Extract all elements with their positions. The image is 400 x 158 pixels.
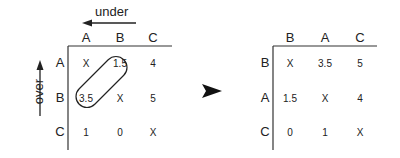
right-arrowhead-icon	[202, 84, 222, 98]
matrix-cell: X	[141, 127, 165, 138]
matrix-cell: 5	[348, 58, 372, 69]
matrix-cell: X	[313, 93, 337, 104]
under-label: under	[95, 4, 128, 19]
row-header: A	[255, 90, 275, 105]
matrix-cell: X	[348, 127, 372, 138]
matrix-cell: 1	[74, 127, 98, 138]
over-label: over	[31, 72, 46, 112]
col-header: A	[315, 30, 335, 45]
row-header: C	[255, 124, 275, 139]
col-header: A	[76, 30, 96, 45]
matrix-cell: 3.5	[313, 58, 337, 69]
col-header: B	[280, 30, 300, 45]
row-header: B	[50, 90, 70, 105]
matrix-cell: X	[278, 58, 302, 69]
matrix-cell: 4	[348, 93, 372, 104]
row-header: B	[255, 55, 275, 70]
row-header: C	[50, 124, 70, 139]
matrix-cell: X	[74, 58, 98, 69]
col-header: C	[350, 30, 370, 45]
matrix-cell: 1.5	[108, 58, 132, 69]
matrix-cell: 1	[313, 127, 337, 138]
matrix-cell: 4	[141, 58, 165, 69]
matrix-cell: 0	[278, 127, 302, 138]
matrix-cell: 1.5	[278, 93, 302, 104]
matrix-cell: 0	[108, 127, 132, 138]
col-header: C	[143, 30, 163, 45]
row-header: A	[50, 55, 70, 70]
matrix-cell: 3.5	[74, 93, 98, 104]
col-header: B	[110, 30, 130, 45]
matrix-cell: X	[108, 93, 132, 104]
matrix-cell: 5	[141, 93, 165, 104]
